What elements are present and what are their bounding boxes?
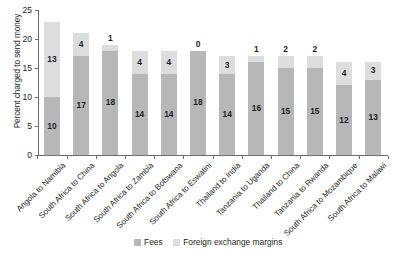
x-tick-mark <box>183 156 184 159</box>
bar-group: 1013 <box>44 10 60 155</box>
bar-value-label-fees: 13 <box>365 113 381 121</box>
bar-group: 180 <box>190 10 206 155</box>
bar-value-label-fees: 14 <box>219 110 235 118</box>
stacked-bar-chart: Percent charged to send money 0510152025… <box>0 0 416 258</box>
bar-value-label-fees: 12 <box>336 116 352 124</box>
bar-value-label-fx-margins: 3 <box>365 66 381 74</box>
bar-segment-fx-margins <box>307 56 323 68</box>
bar-group: 181 <box>102 10 118 155</box>
legend-label: Foreign exchange margins <box>183 238 282 246</box>
legend-item: Foreign exchange margins <box>173 238 283 246</box>
bar-value-label-fees: 18 <box>190 98 206 106</box>
x-tick-mark <box>154 156 155 159</box>
bar-segment-fx-margins <box>278 56 294 68</box>
bar-value-label-fees: 14 <box>132 110 148 118</box>
x-tick-mark <box>388 156 389 159</box>
bar-value-label-fx-margins: 1 <box>248 45 264 53</box>
bar-group: 144 <box>161 10 177 155</box>
bar-value-label-fx-margins: 4 <box>73 40 89 48</box>
bar-value-label-fees: 15 <box>307 107 323 115</box>
x-tick-mark <box>359 156 360 159</box>
y-axis-line <box>38 10 39 156</box>
x-tick-mark <box>242 156 243 159</box>
x-tick-mark <box>300 156 301 159</box>
y-tick-label: 0 <box>12 151 32 160</box>
bar-value-label-fx-margins: 4 <box>161 58 177 66</box>
legend-swatch <box>173 239 180 246</box>
y-tick-label: 20 <box>12 35 32 44</box>
bar-group: 143 <box>219 10 235 155</box>
bar-segment-fx-margins <box>102 45 118 51</box>
bar-group: 133 <box>365 10 381 155</box>
legend-label: Fees <box>144 238 163 246</box>
bar-value-label-fx-margins: 2 <box>278 45 294 53</box>
y-tick-label: 5 <box>12 122 32 131</box>
x-tick-mark <box>96 156 97 159</box>
bar-group: 161 <box>248 10 264 155</box>
y-tick-label: 10 <box>12 93 32 102</box>
bar-value-label-fx-margins: 3 <box>219 61 235 69</box>
bar-value-label-fx-margins: 2 <box>307 45 323 53</box>
x-tick-mark <box>329 156 330 159</box>
chart-legend: FeesForeign exchange margins <box>0 238 416 246</box>
bar-value-label-fees: 14 <box>161 110 177 118</box>
bar-value-label-fx-margins: 13 <box>44 55 60 63</box>
y-tick-label: 25 <box>12 6 32 15</box>
x-tick-mark <box>67 156 68 159</box>
bar-value-label-fx-margins: 4 <box>336 69 352 77</box>
bar-value-label-fees: 10 <box>44 122 60 130</box>
x-tick-mark <box>125 156 126 159</box>
bar-group: 152 <box>307 10 323 155</box>
bar-value-label-fees: 16 <box>248 104 264 112</box>
bar-group: 144 <box>132 10 148 155</box>
bar-value-label-fees: 15 <box>278 107 294 115</box>
bar-value-label-fees: 18 <box>102 98 118 106</box>
bar-group: 152 <box>278 10 294 155</box>
bar-value-label-fees: 17 <box>73 101 89 109</box>
legend-item: Fees <box>134 238 163 246</box>
bar-group: 124 <box>336 10 352 155</box>
bar-value-label-fx-margins: 4 <box>132 58 148 66</box>
bar-segment-fx-margins <box>248 56 264 62</box>
y-tick-label: 15 <box>12 64 32 73</box>
bar-value-label-fx-margins: 1 <box>102 34 118 42</box>
legend-swatch <box>134 239 141 246</box>
x-tick-mark <box>37 156 38 159</box>
bar-value-label-fx-margins: 0 <box>190 40 206 48</box>
x-tick-mark <box>213 156 214 159</box>
x-tick-mark <box>271 156 272 159</box>
bar-group: 174 <box>73 10 89 155</box>
